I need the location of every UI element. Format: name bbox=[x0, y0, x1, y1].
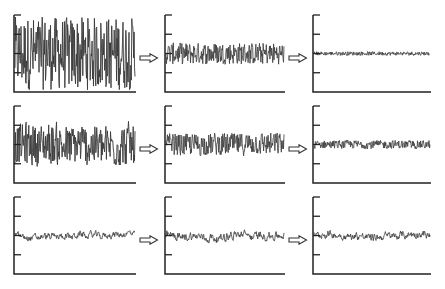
signal-plot-r2c2 bbox=[163, 104, 289, 187]
signal-plot-r2c1 bbox=[12, 104, 140, 187]
signal-trace bbox=[15, 121, 135, 166]
signal-plot-r1c2 bbox=[163, 13, 289, 96]
hollow-right-arrow-icon bbox=[288, 231, 308, 249]
signal-trace bbox=[166, 133, 284, 156]
axes bbox=[14, 197, 136, 274]
hollow-right-arrow-icon bbox=[139, 140, 159, 158]
hollow-right-arrow-icon bbox=[288, 140, 308, 158]
signal-trace bbox=[15, 17, 135, 90]
signal-trace bbox=[314, 52, 430, 56]
signal-trace bbox=[166, 230, 284, 243]
signal-trace bbox=[166, 43, 284, 65]
signal-trace bbox=[15, 230, 135, 241]
hollow-right-arrow-icon bbox=[139, 231, 159, 249]
signal-plot-r3c1 bbox=[12, 195, 140, 278]
hollow-right-arrow-icon bbox=[139, 49, 159, 67]
signal-plot-r1c3 bbox=[311, 13, 435, 96]
signal-plot-r2c3 bbox=[311, 104, 435, 187]
signal-trace bbox=[314, 140, 430, 149]
signal-plot-r3c2 bbox=[163, 195, 289, 278]
signal-trace bbox=[314, 230, 430, 240]
signal-plot-r3c3 bbox=[311, 195, 435, 278]
signal-plot-r1c1 bbox=[12, 13, 140, 96]
hollow-right-arrow-icon bbox=[288, 49, 308, 67]
